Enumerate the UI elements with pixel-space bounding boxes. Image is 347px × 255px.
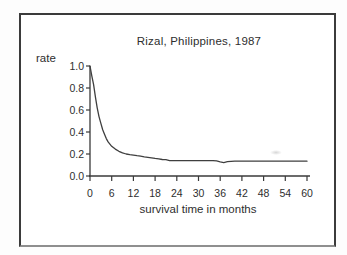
y-tick-label: 1.0 — [69, 60, 84, 72]
x-tick-label: 0 — [87, 187, 93, 199]
x-tick-label: 54 — [279, 187, 291, 199]
y-tick-label: 0.0 — [69, 170, 84, 182]
y-tick-label: 0.4 — [69, 126, 84, 138]
y-tick-label: 0.8 — [69, 82, 84, 94]
y-tick-label: 0.6 — [69, 104, 84, 116]
x-tick-label: 18 — [149, 187, 161, 199]
x-tick-label: 6 — [109, 187, 115, 199]
x-tick-label: 48 — [258, 187, 270, 199]
x-axis-title: survival time in months — [98, 203, 298, 215]
scan-smudge-artifact — [270, 150, 282, 155]
x-tick-label: 24 — [171, 187, 183, 199]
survival-curve-plot: 061218243036424854601.00.80.60.40.20.0 — [0, 0, 347, 255]
y-tick-label: 0.2 — [69, 148, 84, 160]
figure-scan: Rizal, Philippines, 1987 rate 0612182430… — [0, 0, 347, 255]
x-tick-label: 36 — [214, 187, 226, 199]
x-tick-label: 30 — [193, 187, 205, 199]
x-tick-label: 60 — [301, 187, 313, 199]
x-tick-label: 42 — [236, 187, 248, 199]
survival-curve — [90, 66, 307, 163]
x-tick-label: 12 — [128, 187, 140, 199]
